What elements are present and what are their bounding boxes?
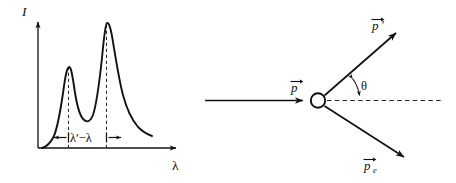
theta-angle-arc xyxy=(353,79,360,96)
scattering-center-node xyxy=(311,93,325,107)
x-axis-label: λ xyxy=(172,158,179,173)
electron-momentum-subscript: e xyxy=(373,165,377,175)
momentum-panel xyxy=(205,33,441,157)
intensity-curve xyxy=(42,23,152,148)
spectrum-panel xyxy=(38,22,176,148)
incident-momentum-label: p xyxy=(290,80,298,95)
electron-momentum-label-group: p e xyxy=(363,158,377,175)
y-axis-label: I xyxy=(21,4,28,19)
scattered-momentum-label-group: p ′ xyxy=(371,17,384,33)
compton-figure: I λ λ′−λ p p ′ p e xyxy=(0,0,456,183)
figure-labels: I λ λ′−λ p p ′ p e xyxy=(21,4,384,175)
electron-vector-bar-arrowhead xyxy=(373,158,376,162)
electron-momentum-label: p xyxy=(363,158,371,173)
electron-momentum-arrow xyxy=(325,106,405,157)
incident-momentum-label-group: p xyxy=(290,80,303,95)
compton-figure-svg: I λ λ′−λ p p ′ p e xyxy=(0,0,456,183)
wavelength-shift-label: λ′−λ xyxy=(70,131,92,145)
scattering-angle-label: θ xyxy=(361,79,367,93)
incident-vector-bar-arrowhead xyxy=(300,80,303,84)
scattered-momentum-label: p xyxy=(371,18,379,33)
